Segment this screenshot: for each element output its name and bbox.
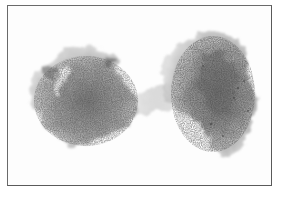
- image-frame: [7, 5, 272, 186]
- micrograph: [8, 6, 271, 185]
